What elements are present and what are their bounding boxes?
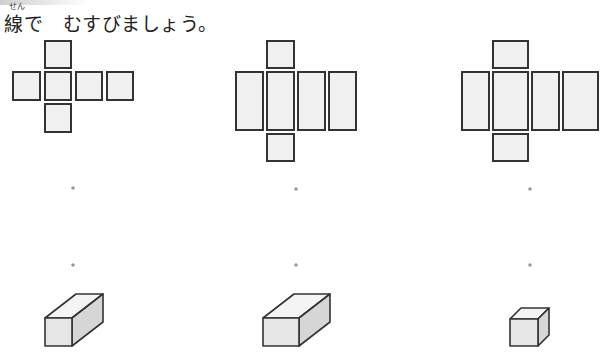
solid-front-face: [510, 319, 538, 346]
net-face: [298, 72, 325, 130]
match-dot-top-1[interactable]: [71, 186, 75, 190]
solid-2: [263, 294, 330, 346]
solid-front-face: [45, 318, 72, 346]
net-2: [236, 41, 356, 161]
match-dot-bottom-1[interactable]: [71, 263, 75, 267]
net-face: [45, 104, 71, 132]
solid-front-face: [263, 318, 299, 346]
net-3: [462, 41, 598, 161]
solid-3: [510, 308, 549, 346]
net-face: [563, 72, 598, 130]
net-face: [493, 134, 528, 161]
solid-1: [45, 294, 103, 346]
net-face: [45, 72, 71, 100]
net-face: [493, 72, 528, 130]
net-1: [13, 41, 133, 132]
net-face: [267, 41, 294, 68]
exercise-canvas: [0, 0, 604, 362]
net-face: [107, 72, 133, 100]
net-face: [532, 72, 559, 130]
net-face: [76, 72, 102, 100]
net-face: [329, 72, 356, 130]
net-face: [493, 41, 528, 68]
net-face: [267, 134, 294, 161]
net-face: [236, 72, 263, 130]
match-dot-top-2[interactable]: [294, 187, 298, 191]
net-face: [462, 72, 489, 130]
net-face: [267, 72, 294, 130]
net-face: [13, 72, 40, 100]
match-dot-top-3[interactable]: [528, 187, 532, 191]
net-face: [45, 41, 71, 68]
match-dot-bottom-3[interactable]: [528, 263, 532, 267]
match-dot-bottom-2[interactable]: [294, 263, 298, 267]
